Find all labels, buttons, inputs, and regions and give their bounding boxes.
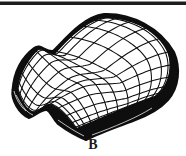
figure-label: B (0, 137, 186, 152)
seat-wireframe-figure (0, 0, 186, 156)
figure: B (0, 0, 186, 156)
